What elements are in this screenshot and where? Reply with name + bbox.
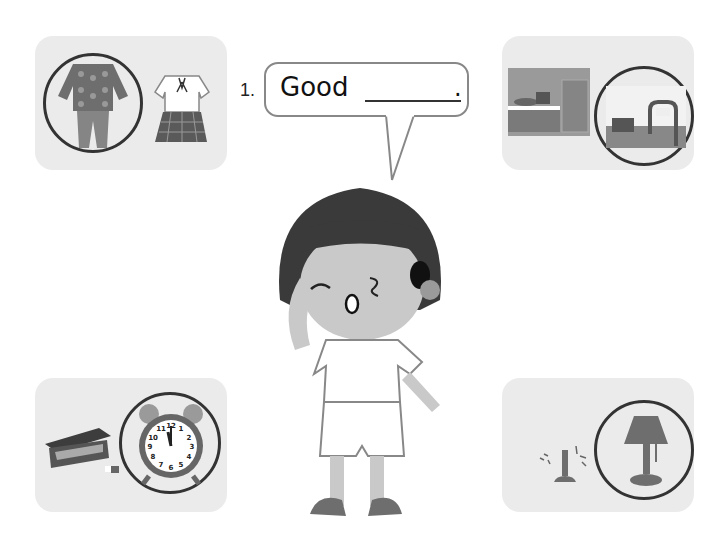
svg-text:8: 8 bbox=[151, 453, 156, 461]
card-objects: 1212345 67891011 bbox=[35, 378, 227, 512]
bubble-tail bbox=[384, 114, 424, 182]
pencil-case-icon bbox=[41, 418, 121, 478]
card-lamps bbox=[502, 378, 694, 512]
bedroom-icon bbox=[606, 86, 686, 148]
svg-text:2: 2 bbox=[187, 434, 192, 442]
end-punctuation: . bbox=[454, 74, 462, 102]
lamp-icon bbox=[622, 414, 672, 488]
svg-text:5: 5 bbox=[179, 461, 184, 469]
speech-bubble: Good . bbox=[264, 62, 469, 117]
svg-text:3: 3 bbox=[190, 443, 195, 451]
svg-text:9: 9 bbox=[148, 443, 153, 451]
question-number: 1. bbox=[240, 80, 255, 101]
svg-text:6: 6 bbox=[169, 464, 174, 472]
svg-text:10: 10 bbox=[148, 434, 158, 442]
card-rooms bbox=[502, 36, 694, 170]
answer-blank[interactable] bbox=[365, 100, 461, 102]
svg-text:4: 4 bbox=[187, 453, 192, 461]
alarm-clock-icon: 1212345 67891011 bbox=[135, 400, 207, 486]
prompt-text: Good bbox=[280, 72, 348, 102]
card-clothes bbox=[35, 36, 227, 170]
pajamas-icon bbox=[53, 56, 133, 151]
kitchen-icon bbox=[508, 68, 590, 136]
svg-text:1: 1 bbox=[179, 425, 184, 433]
svg-text:11: 11 bbox=[156, 425, 166, 433]
svg-text:7: 7 bbox=[159, 461, 164, 469]
broken-lamp-icon bbox=[536, 446, 600, 486]
girl-character-illustration bbox=[270, 180, 450, 520]
school-uniform-icon bbox=[151, 72, 213, 152]
